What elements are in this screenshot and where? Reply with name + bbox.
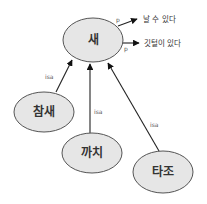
- node-bird-label: 새: [88, 32, 99, 47]
- p-label-can-fly: p: [116, 16, 120, 24]
- isa-edge-sparrow: [56, 60, 72, 92]
- node-ostrich: 타조: [133, 151, 193, 193]
- isa-label-ostrich: isa: [150, 121, 159, 128]
- prop-edge-can-fly: [118, 19, 137, 26]
- node-ostrich-label: 타조: [152, 164, 174, 179]
- node-sparrow-label: 참새: [33, 104, 55, 119]
- isa-edge-ostrich: [108, 63, 159, 151]
- isa-label-magpie: isa: [94, 108, 103, 115]
- semantic-network-diagram: 새 참새 까치 타조 isa isa isa p p 날 수 있다 깃털이 있다: [0, 0, 207, 204]
- node-sparrow: 참새: [14, 92, 74, 132]
- p-label-has-feathers: p: [124, 45, 128, 53]
- node-magpie: 까치: [62, 133, 122, 173]
- node-magpie-label: 까치: [81, 145, 103, 160]
- property-can-fly: 날 수 있다: [143, 14, 176, 24]
- property-has-feathers: 깃털이 있다: [144, 38, 181, 48]
- node-bird: 새: [63, 18, 123, 62]
- isa-label-sparrow: isa: [45, 73, 54, 80]
